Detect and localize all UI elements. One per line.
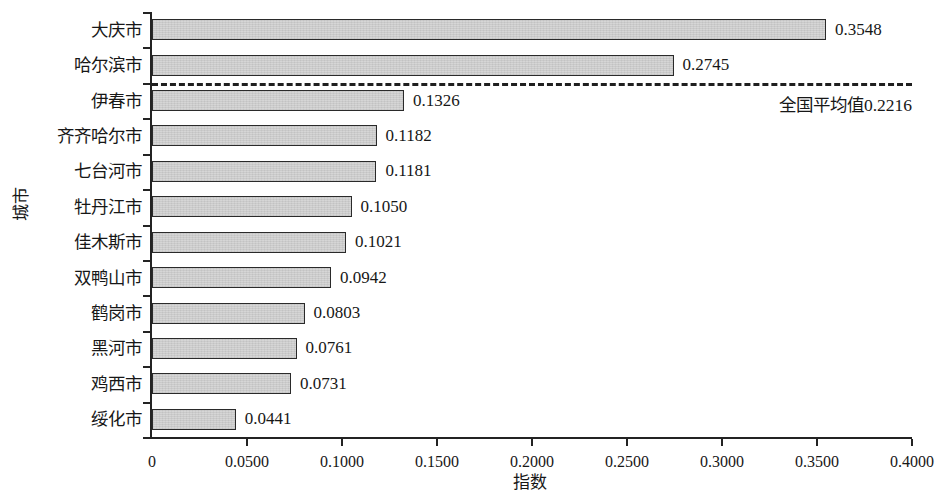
x-axis-tick [246,439,248,446]
x-axis-tick-label: 0.2500 [582,452,672,471]
bar [152,55,674,76]
x-axis-tick [436,439,438,446]
bar [152,267,331,288]
bar-value-label: 0.1021 [355,232,402,252]
x-axis-tick-label: 0.2000 [487,452,577,471]
category-label: 鹤岗市 [0,303,147,323]
bar [152,161,376,182]
y-axis-tick [143,331,151,333]
x-axis-tick-label: 0.3500 [772,452,862,471]
bar [152,196,352,217]
x-axis-tick [816,439,818,446]
x-axis-title: 指数 [470,473,590,492]
category-label: 七台河市 [0,161,147,181]
category-label: 佳木斯市 [0,232,147,252]
bar [152,409,236,430]
y-axis-tick [143,154,151,156]
bar-value-label: 0.0942 [340,268,387,288]
y-axis-tick [143,118,151,120]
category-axis-labels: 大庆市哈尔滨市伊春市齐齐哈尔市七台河市牡丹江市佳木斯市双鸭山市鹤岗市黑河市鸡西市… [0,12,147,437]
bar-value-label: 0.1050 [361,197,408,217]
y-axis-tick [143,189,151,191]
category-label: 绥化市 [0,409,147,429]
y-axis-tick [143,295,151,297]
category-label: 双鸭山市 [0,268,147,288]
bar [152,19,826,40]
x-axis-tick-label: 0.4000 [867,452,935,471]
bar-value-label: 0.0761 [306,338,353,358]
x-axis-tick [531,439,533,446]
bar-value-label: 0.2745 [683,55,730,75]
category-label: 大庆市 [0,20,147,40]
x-axis-tick [626,439,628,446]
national-average-reference-line [152,83,912,86]
y-axis-tick [143,402,151,404]
x-axis-tick-label: 0 [107,452,197,471]
y-axis-tick [143,366,151,368]
category-label: 伊春市 [0,91,147,111]
bar-value-label: 0.1181 [385,161,431,181]
x-axis-tick [721,439,723,446]
x-axis-tick [341,439,343,446]
x-axis-tick-label: 0.3000 [677,452,767,471]
bar [152,338,297,359]
bar-value-label: 0.0731 [300,374,347,394]
bar [152,303,305,324]
bar [152,125,377,146]
category-label: 哈尔滨市 [0,55,147,75]
category-label: 黑河市 [0,338,147,358]
category-label: 鸡西市 [0,374,147,394]
bar-value-label: 0.3548 [835,20,882,40]
x-axis-tick-label: 0.1500 [392,452,482,471]
category-label: 牡丹江市 [0,197,147,217]
national-average-label: 全国平均值0.2216 [712,95,912,115]
plot-area: 0.35480.27450.13260.11820.11810.10500.10… [152,12,912,437]
bar-value-label: 0.1182 [386,126,432,146]
x-axis-tick-label: 0.0500 [202,452,292,471]
y-axis-tick [143,225,151,227]
y-axis-tick [143,83,151,85]
category-label: 齐齐哈尔市 [0,126,147,146]
y-axis-tick [143,260,151,262]
bar-value-label: 0.0441 [245,409,292,429]
y-axis-tick [143,47,151,49]
bar-value-label: 0.0803 [314,303,361,323]
bar [152,90,404,111]
bar-value-label: 0.1326 [413,91,460,111]
x-axis-tick [911,439,913,446]
bar [152,373,291,394]
bar [152,232,346,253]
y-axis-tick [143,437,151,439]
y-axis-tick [143,12,151,14]
x-axis-tick-label: 0.1000 [297,452,387,471]
